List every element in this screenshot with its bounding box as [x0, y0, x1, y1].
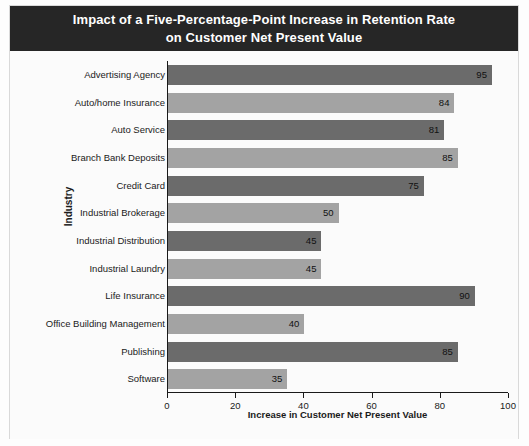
x-tick-mark	[235, 393, 236, 398]
y-axis-tick-labels: Advertising AgencyAuto/home InsuranceAut…	[36, 61, 165, 393]
x-tick-mark	[508, 393, 509, 398]
bar-value-label: 75	[168, 176, 424, 196]
y-axis-label-auto-service: Auto Service	[36, 124, 165, 135]
bar-publishing: 85	[168, 342, 458, 362]
bar-industrial-distribution: 45	[168, 231, 321, 251]
bar-value-label: 84	[168, 93, 454, 113]
x-tick-mark	[440, 393, 441, 398]
bar-auto-home-insurance: 84	[168, 93, 454, 113]
bar-value-label: 85	[168, 148, 458, 168]
y-axis-label-advertising-agency: Advertising Agency	[36, 69, 165, 80]
bar-value-label: 50	[168, 203, 339, 223]
chart-figure: Impact of a Five-Percentage-Point Increa…	[0, 0, 529, 446]
y-axis-label-publishing: Publishing	[36, 346, 165, 357]
bar-value-label: 90	[168, 286, 475, 306]
bar-value-label: 81	[168, 120, 444, 140]
y-axis-label-industrial-brokerage: Industrial Brokerage	[36, 207, 165, 218]
bar-life-insurance: 90	[168, 286, 475, 306]
bar-value-label: 35	[168, 369, 287, 389]
bar-value-label: 40	[168, 314, 304, 334]
y-axis-label-industrial-distribution: Industrial Distribution	[36, 235, 165, 246]
y-axis-label-office-building-management: Office Building Management	[36, 318, 165, 329]
plot-area: 958481857550454590408535020406080100	[167, 61, 508, 393]
x-tick-mark	[372, 393, 373, 398]
bar-auto-service: 81	[168, 120, 444, 140]
y-axis-label-industrial-laundry: Industrial Laundry	[36, 263, 165, 274]
y-axis-label-software: Software	[36, 373, 165, 384]
bar-advertising-agency: 95	[168, 65, 492, 85]
y-axis-label-branch-bank-deposits: Branch Bank Deposits	[36, 152, 165, 163]
y-axis-label-auto-home-insurance: Auto/home Insurance	[36, 97, 165, 108]
bar-industrial-laundry: 45	[168, 259, 321, 279]
bar-branch-bank-deposits: 85	[168, 148, 458, 168]
chart-title: Impact of a Five-Percentage-Point Increa…	[59, 11, 469, 46]
bar-industrial-brokerage: 50	[168, 203, 339, 223]
y-axis-label-credit-card: Credit Card	[36, 180, 165, 191]
bar-office-building-management: 40	[168, 314, 304, 334]
y-axis-label-life-insurance: Life Insurance	[36, 290, 165, 301]
bar-value-label: 85	[168, 342, 458, 362]
chart-title-banner: Impact of a Five-Percentage-Point Increa…	[10, 6, 518, 51]
bar-value-label: 95	[168, 65, 492, 85]
x-axis-line	[167, 392, 508, 393]
x-axis-title: Increase in Customer Net Present Value	[167, 409, 508, 420]
bar-value-label: 45	[168, 231, 321, 251]
bar-software: 35	[168, 369, 287, 389]
x-tick-mark	[167, 393, 168, 398]
plot-frame: Industry Advertising AgencyAuto/home Ins…	[10, 51, 518, 439]
x-tick-mark	[303, 393, 304, 398]
bar-credit-card: 75	[168, 176, 424, 196]
bar-value-label: 45	[168, 259, 321, 279]
